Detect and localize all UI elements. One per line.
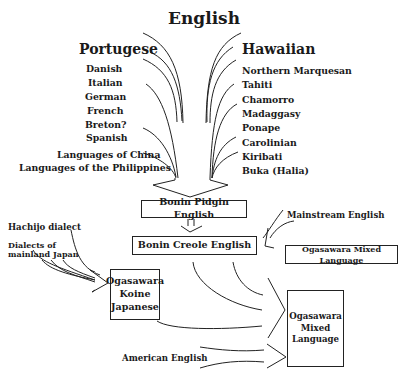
source-language: French [87,106,123,115]
source-language: Buka (Halia) [242,166,309,175]
hawaiian-header: Hawaiian [242,42,315,56]
portuguese-header: Portugese [79,42,158,56]
source-language: Northern Marquesan [242,66,352,75]
bonin-pidgin-english-node: Bonin Pidgin English [141,200,247,218]
source-language: Carolinian [242,138,297,147]
source-language: Italian [88,78,123,87]
ogasawara-mixed-language-node: Ogasawara Mixed Language [287,290,344,367]
source-language: Danish [86,64,122,73]
diagram-title: English [168,10,240,27]
source-language: Languages of the Philippines [19,163,171,172]
ogasawara-mixed-language-small-node: Ogasawara Mixed Language [285,245,398,264]
source-language: Kiribati [242,152,282,161]
mainland-dialects-label: Dialects of mainland Japan [8,241,78,259]
source-language: Madaggasy [242,109,301,118]
source-language: Spanish [86,133,128,142]
source-language: Chamorro [242,95,294,104]
bonin-creole-english-node: Bonin Creole English [132,236,257,255]
hachijo-dialect-label: Hachijo dialect [8,223,81,232]
source-language: Tahiti [242,80,272,89]
source-language: German [85,92,126,101]
american-english-label: American English [122,354,207,363]
source-language: Breton? [85,120,126,129]
source-language: Ponape [242,123,280,132]
source-language: Languages of China [57,150,160,159]
ogasawara-koine-japanese-node: Ogasawara Koine Japanese [110,269,160,320]
mainstream-english-label: Mainstream English [287,211,384,220]
